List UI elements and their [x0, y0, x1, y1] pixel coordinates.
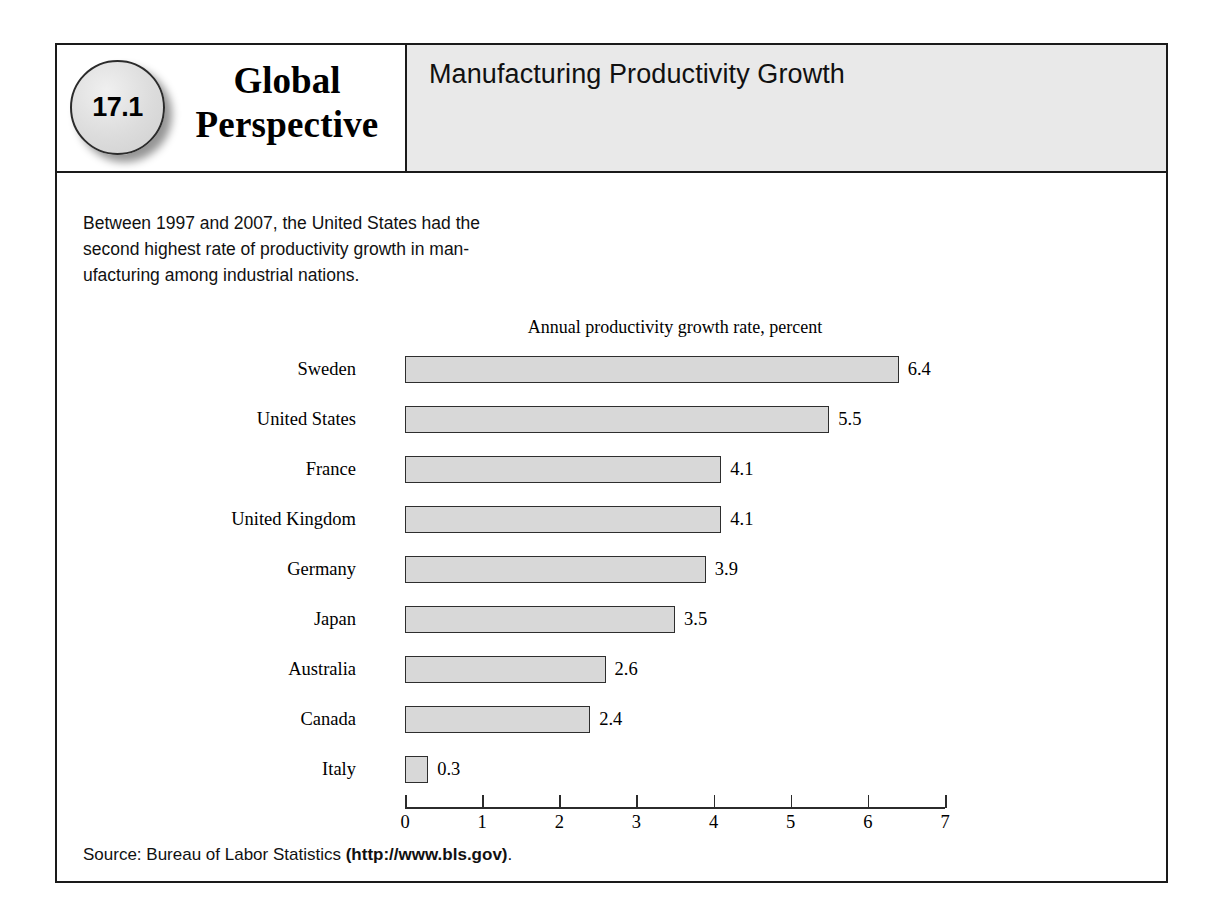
bar-track: 0.3 [405, 756, 1005, 783]
bar-row: Canada2.4 [57, 701, 1166, 751]
x-axis-tick [405, 795, 407, 808]
source-note: Source: Bureau of Labor Statistics (http… [83, 845, 512, 865]
header-brand-panel: 17.1 Global Perspective [57, 45, 407, 171]
bar-value-label: 3.9 [715, 559, 738, 580]
bar-category-label: France [96, 459, 356, 480]
bar-value-label: 4.1 [730, 509, 753, 530]
page-title: Manufacturing Productivity Growth [429, 59, 845, 90]
intro-line-3: ufacturing among industrial nations. [83, 262, 553, 288]
bar-category-label: United Kingdom [96, 509, 356, 530]
bar-category-label: Australia [96, 659, 356, 680]
intro-paragraph: Between 1997 and 2007, the United States… [83, 210, 553, 288]
bar [405, 656, 606, 683]
bar-value-label: 5.5 [838, 409, 861, 430]
bar [405, 706, 590, 733]
bar [405, 506, 721, 533]
figure-header: 17.1 Global Perspective Manufacturing Pr… [57, 45, 1166, 173]
bar-track: 4.1 [405, 506, 1005, 533]
bar-track: 2.4 [405, 706, 1005, 733]
x-axis-line [405, 807, 945, 809]
x-axis-tick-label: 4 [709, 812, 718, 833]
source-suffix: . [508, 845, 513, 864]
source-url-link[interactable]: (http://www.bls.gov) [346, 845, 508, 864]
x-axis-tick [868, 795, 870, 808]
wordmark-line-global: Global [177, 59, 397, 103]
bar [405, 356, 899, 383]
x-axis-tick-label: 2 [555, 812, 564, 833]
x-axis-tick-label: 6 [863, 812, 872, 833]
x-axis-tick-label: 7 [940, 812, 949, 833]
source-prefix: Source: Bureau of Labor Statistics [83, 845, 346, 864]
bar-row: Australia2.6 [57, 651, 1166, 701]
x-axis-tick [559, 795, 561, 808]
bar-value-label: 3.5 [684, 609, 707, 630]
chapter-badge: 17.1 [70, 60, 165, 155]
bar [405, 756, 428, 783]
x-axis-tick [945, 795, 947, 808]
bar-row: Germany3.9 [57, 551, 1166, 601]
bar-track: 2.6 [405, 656, 1005, 683]
bar-track: 3.5 [405, 606, 1005, 633]
bar [405, 406, 829, 433]
bar-row: United Kingdom4.1 [57, 501, 1166, 551]
bar-value-label: 0.3 [437, 759, 460, 780]
x-axis-tick-label: 1 [478, 812, 487, 833]
bar-value-label: 4.1 [730, 459, 753, 480]
header-title-panel: Manufacturing Productivity Growth [407, 45, 1166, 171]
bar-category-label: United States [96, 409, 356, 430]
bar-category-label: Japan [96, 609, 356, 630]
x-axis-tick [714, 795, 716, 808]
x-axis-tick [482, 795, 484, 808]
x-axis-tick [791, 795, 793, 808]
bar-track: 5.5 [405, 406, 1005, 433]
x-axis-tick-label: 3 [632, 812, 641, 833]
chart-plot-area: Sweden6.4United States5.5France4.1United… [57, 351, 1166, 801]
bar-track: 6.4 [405, 356, 1005, 383]
bar-track: 3.9 [405, 556, 1005, 583]
bar-value-label: 6.4 [908, 359, 931, 380]
bar [405, 606, 675, 633]
bar-row: France4.1 [57, 451, 1166, 501]
x-axis-tick [636, 795, 638, 808]
x-axis-tick-label: 5 [786, 812, 795, 833]
bar-row: Italy0.3 [57, 751, 1166, 801]
intro-line-1: Between 1997 and 2007, the United States… [83, 210, 553, 236]
bar-value-label: 2.4 [599, 709, 622, 730]
global-perspective-figure: 17.1 Global Perspective Manufacturing Pr… [55, 43, 1168, 883]
intro-line-2: second highest rate of productivity grow… [83, 236, 553, 262]
bar [405, 556, 706, 583]
wordmark-line-perspective: Perspective [177, 103, 397, 147]
bar-track: 4.1 [405, 456, 1005, 483]
bar-row: Japan3.5 [57, 601, 1166, 651]
chart-x-axis: 01234567 [405, 795, 945, 845]
bar-category-label: Sweden [96, 359, 356, 380]
x-axis-tick-label: 0 [400, 812, 409, 833]
bar-row: United States5.5 [57, 401, 1166, 451]
global-perspective-wordmark: Global Perspective [177, 59, 397, 147]
chart-subtitle: Annual productivity growth rate, percent [405, 317, 945, 338]
bar-chart: Annual productivity growth rate, percent… [57, 317, 1166, 817]
chapter-badge-number: 17.1 [92, 94, 143, 121]
bar-value-label: 2.6 [615, 659, 638, 680]
bar [405, 456, 721, 483]
bar-category-label: Canada [96, 709, 356, 730]
bar-row: Sweden6.4 [57, 351, 1166, 401]
bar-category-label: Italy [96, 759, 356, 780]
bar-category-label: Germany [96, 559, 356, 580]
